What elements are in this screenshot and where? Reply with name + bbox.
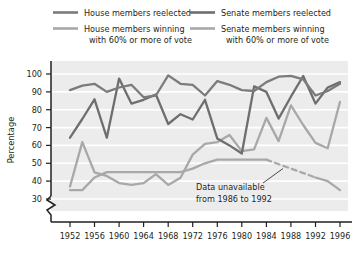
- y-tick-label-90: 90: [32, 87, 42, 97]
- y-axis: 100 90 80 70 60 50 40 30 Percentage: [6, 61, 55, 222]
- y-tick-label-80: 80: [32, 105, 42, 115]
- annotation-text-line1: Data unavailable: [196, 182, 265, 192]
- legend-label-house-reelected: House members reelected: [84, 8, 191, 18]
- x-tick-label-1996: 1996: [330, 231, 351, 241]
- legend-label-senate-reelected: Senate members reelected: [221, 8, 331, 18]
- y-tick-label-100: 100: [27, 69, 42, 79]
- legend-label-house-60-line2: with 60% or more of vote: [89, 35, 192, 45]
- x-tick-label-1976: 1976: [207, 231, 228, 241]
- chart-container: House members reelected Senate members r…: [0, 0, 360, 257]
- y-tick-label-60: 60: [32, 140, 42, 150]
- x-tick-label-1960: 1960: [109, 231, 130, 241]
- x-tick-label-1968: 1968: [158, 231, 179, 241]
- x-tick-label-1952: 1952: [60, 231, 81, 241]
- x-tick-label-1964: 1964: [133, 231, 154, 241]
- line-chart: House members reelected Senate members r…: [0, 0, 360, 257]
- legend-label-house-60-line1: House members winning: [84, 24, 185, 34]
- x-tick-label-1984: 1984: [256, 231, 277, 241]
- x-tick-label-1988: 1988: [281, 231, 302, 241]
- x-tick-label-1956: 1956: [84, 231, 105, 241]
- legend-label-senate-60-line2: with 60% or more of vote: [226, 35, 329, 45]
- y-axis-title: Percentage: [6, 117, 16, 164]
- y-tick-label-40: 40: [32, 176, 42, 186]
- annotation-text-line2: from 1986 to 1992: [196, 194, 272, 204]
- legend-label-senate-60-line1: Senate members winning: [221, 24, 325, 34]
- x-tick-label-1992: 1992: [305, 231, 326, 241]
- chart-legend: House members reelected Senate members r…: [53, 8, 331, 45]
- y-tick-label-30: 30: [32, 194, 42, 204]
- x-tick-label-1980: 1980: [231, 231, 252, 241]
- y-tick-label-70: 70: [32, 123, 42, 133]
- x-axis: 1952 1956 1960 1964 1968 1972 1976 1980 …: [51, 222, 352, 241]
- y-tick-label-50: 50: [32, 158, 42, 168]
- x-tick-label-1972: 1972: [182, 231, 203, 241]
